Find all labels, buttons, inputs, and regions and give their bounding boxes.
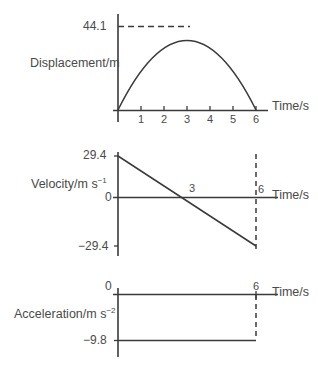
displacement-axis-label: Displacement/m xyxy=(30,57,120,70)
velocity-graph xyxy=(113,152,278,256)
physics-motion-graphs-figure: 44.1 Displacement/m 1 2 3 4 5 6 Time/s 2… xyxy=(0,0,318,377)
displacement-tick-2: 2 xyxy=(161,114,167,125)
displacement-tick-4: 4 xyxy=(207,114,213,125)
velocity-end-tick-label: 6 xyxy=(258,184,264,195)
displacement-graph xyxy=(113,14,268,122)
velocity-zero-value-label: 0 xyxy=(105,191,112,203)
velocity-bottom-value-label: −29.4 xyxy=(78,240,108,252)
velocity-crossing-tick-label: 3 xyxy=(189,183,195,194)
displacement-peak-value-label: 44.1 xyxy=(83,20,106,32)
displacement-x-ticks xyxy=(141,106,256,110)
acceleration-graph xyxy=(113,288,278,357)
acceleration-time-axis-label: Time/s xyxy=(272,286,309,299)
acceleration-level-value-label: −9.8 xyxy=(83,334,107,346)
acceleration-axis-label: Acceleration/m s−2 xyxy=(14,307,116,321)
velocity-line xyxy=(118,156,256,246)
displacement-tick-5: 5 xyxy=(230,114,236,125)
velocity-top-value-label: 29.4 xyxy=(83,149,106,161)
velocity-axis-label-base: Velocity/m s xyxy=(31,177,98,191)
velocity-axis-label: Velocity/m s−1 xyxy=(31,177,107,191)
acceleration-axis-label-exponent: −2 xyxy=(106,306,115,315)
displacement-tick-6: 6 xyxy=(253,114,259,125)
displacement-time-axis-label: Time/s xyxy=(272,100,309,113)
velocity-time-axis-label: Time/s xyxy=(272,189,309,202)
displacement-tick-3: 3 xyxy=(184,114,190,125)
acceleration-zero-value-label: 0 xyxy=(105,280,112,292)
acceleration-axis-label-base: Acceleration/m s xyxy=(14,307,106,321)
displacement-curve xyxy=(118,41,256,111)
displacement-tick-1: 1 xyxy=(138,114,144,125)
acceleration-end-tick-label: 6 xyxy=(253,281,259,292)
velocity-axis-label-exponent: −1 xyxy=(98,176,107,185)
